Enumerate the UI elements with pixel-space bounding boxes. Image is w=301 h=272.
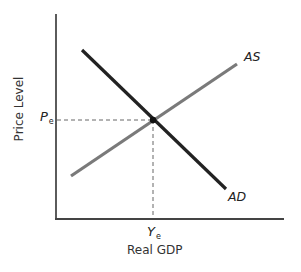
pe-symbol: P [40, 109, 48, 124]
y-axis-label: Price Level [12, 76, 26, 142]
ye-tick-label: Ye [147, 224, 161, 239]
ye-subscript: e [156, 232, 161, 241]
x-axis-label: Real GDP [127, 243, 182, 257]
pe-tick-label: Pe [40, 109, 54, 124]
as-curve-label: AS [244, 49, 261, 64]
ye-symbol: Y [147, 224, 155, 239]
equilibrium-point [150, 117, 156, 123]
pe-subscript: e [49, 117, 54, 126]
ad-curve-label: AD [228, 189, 246, 204]
